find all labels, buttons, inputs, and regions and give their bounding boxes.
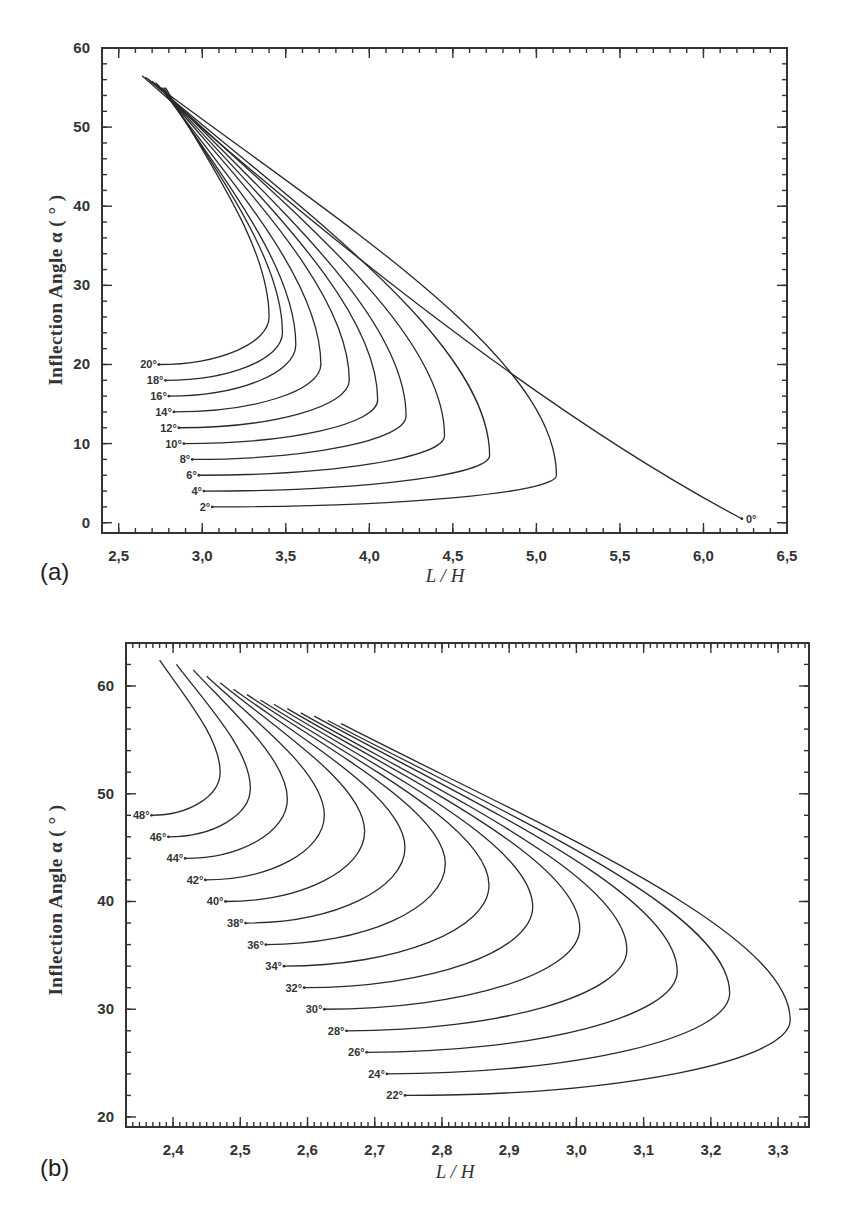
x-tick-label: 3,1	[633, 1141, 654, 1158]
curve-endpoint-dot	[244, 922, 247, 925]
curve-endpoint-dot	[224, 900, 227, 903]
curve-0deg	[142, 76, 742, 519]
y-tick-label: 30	[73, 276, 90, 293]
curve-label: 34°	[265, 960, 282, 972]
curve-12deg	[159, 86, 349, 428]
curve-label: 18°	[147, 374, 164, 386]
x-tick-label: 6,0	[693, 547, 714, 564]
curve-24deg	[328, 720, 730, 1073]
y-tick-label: 0	[82, 514, 90, 531]
curve-endpoint-dot	[385, 1072, 388, 1075]
y-tick-label: 40	[97, 892, 114, 909]
curve-label: 46°	[150, 831, 167, 843]
curve-endpoint-dot	[182, 442, 185, 445]
curve-22deg	[341, 724, 790, 1096]
x-tick-label: 3,2	[700, 1141, 721, 1158]
curve-endpoint-dot	[264, 943, 267, 946]
curve-label: 32°	[286, 982, 303, 994]
curve-endpoint-dot	[203, 490, 206, 493]
curve-18deg	[164, 88, 283, 381]
curve-34deg	[260, 700, 489, 966]
curve-endpoint-dot	[150, 814, 153, 817]
curve-endpoint-dot	[740, 517, 743, 520]
x-tick-label: 6,5	[777, 547, 798, 564]
curves-a	[142, 76, 743, 520]
curves-b	[150, 660, 790, 1097]
chart-panel-b: 22°24°26°28°30°32°34°36°38°40°42°44°46°4…	[40, 643, 809, 1182]
curve-label: 16°	[150, 390, 167, 402]
curve-endpoint-dot	[404, 1094, 407, 1097]
x-tick-label: 2,9	[499, 1141, 520, 1158]
y-tick-label: 30	[97, 1000, 114, 1017]
x-tick-label: 2,5	[108, 547, 129, 564]
curve-label: 26°	[348, 1046, 365, 1058]
curve-label: 20°	[140, 358, 157, 370]
curve-label: 36°	[247, 939, 264, 951]
curve-32deg	[274, 704, 533, 987]
x-tick-label: 5,0	[526, 547, 547, 564]
curve-44deg	[185, 670, 287, 859]
curve-label: 2°	[200, 501, 211, 513]
curve-label: 48°	[133, 809, 150, 821]
x-tick-label: 4,5	[442, 547, 463, 564]
curve-label: 6°	[186, 469, 197, 481]
curve-label: 44°	[167, 852, 184, 864]
curve-8deg	[155, 83, 406, 460]
x-tick-label: 5,5	[609, 547, 630, 564]
curve-endpoint-dot	[167, 835, 170, 838]
curve-endpoint-dot	[157, 363, 160, 366]
y-tick-label: 50	[97, 785, 114, 802]
x-tick-label: 2,6	[297, 1141, 318, 1158]
y-tick-label: 20	[97, 1108, 114, 1125]
curve-labels-a: 0°2°4°6°8°10°12°14°16°18°20°	[140, 358, 756, 524]
curve-16deg	[162, 88, 296, 397]
curve-label: 4°	[191, 485, 202, 497]
curve-20deg	[159, 88, 269, 365]
y-tick-label: 20	[73, 355, 90, 372]
figure: 0°2°4°6°8°10°12°14°16°18°20° 2,53,03,54,…	[0, 0, 849, 1218]
panel-label-b: (b)	[40, 1154, 69, 1181]
curve-label: 38°	[227, 917, 244, 929]
curve-endpoint-dot	[164, 379, 167, 382]
y-tick-label: 60	[73, 39, 90, 56]
curve-label: 12°	[160, 422, 177, 434]
curve-label: 0°	[746, 513, 757, 525]
curve-endpoint-dot	[172, 411, 175, 414]
y-tick-label: 10	[73, 435, 90, 452]
curve-label: 10°	[165, 438, 182, 450]
curve-label: 24°	[368, 1068, 385, 1080]
curve-endpoint-dot	[323, 1008, 326, 1011]
curve-endpoint-dot	[365, 1051, 368, 1054]
x-tick-label: 3,0	[566, 1141, 587, 1158]
axis-ticks-b: 2,42,52,62,72,82,93,03,13,23,32030405060	[97, 643, 809, 1158]
curve-endpoint-dot	[303, 986, 306, 989]
curve-label: 28°	[328, 1025, 345, 1037]
curve-4deg	[149, 80, 490, 491]
plot-frame-b	[126, 643, 809, 1127]
x-tick-label: 3,3	[768, 1141, 789, 1158]
curve-endpoint-dot	[345, 1029, 348, 1032]
curve-label: 30°	[306, 1003, 323, 1015]
curve-endpoint-dot	[204, 879, 207, 882]
curve-label: 42°	[187, 874, 204, 886]
x-tick-label: 2,5	[230, 1141, 251, 1158]
curve-label: 22°	[386, 1089, 403, 1101]
curve-endpoint-dot	[167, 395, 170, 398]
curve-endpoint-dot	[191, 458, 194, 461]
curve-endpoint-dot	[283, 965, 286, 968]
curve-endpoint-dot	[177, 426, 180, 429]
x-tick-label: 3,0	[192, 547, 213, 564]
x-tick-label: 2,7	[364, 1141, 385, 1158]
x-tick-label: 3,5	[275, 547, 296, 564]
curve-endpoint-dot	[184, 857, 187, 860]
curve-label: 14°	[155, 406, 172, 418]
y-tick-label: 60	[97, 677, 114, 694]
curve-labels-b: 22°24°26°28°30°32°34°36°38°40°42°44°46°4…	[133, 809, 403, 1101]
x-tick-label: 4,0	[359, 547, 380, 564]
panel-label-a: (a)	[40, 558, 69, 585]
x-axis-label-a: L / H	[425, 565, 466, 586]
curve-6deg	[152, 81, 444, 475]
curve-48deg	[152, 660, 221, 815]
curve-label: 40°	[207, 895, 224, 907]
curve-36deg	[247, 695, 445, 945]
